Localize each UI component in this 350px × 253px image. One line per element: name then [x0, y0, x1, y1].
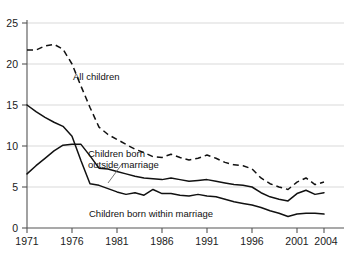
- y-tick-label-10: 10: [6, 140, 18, 152]
- x-tick-label-1981: 1981: [105, 235, 129, 247]
- all-children-label: All children: [73, 71, 119, 82]
- x-tick-label-2004: 2004: [314, 235, 338, 247]
- within-marriage-label: Children born within marriage: [89, 208, 213, 219]
- y-tick-label-15: 15: [6, 99, 18, 111]
- x-tick-label-1976: 1976: [60, 235, 84, 247]
- y-tick-label-0: 0: [12, 222, 18, 234]
- x-tick-label-1986: 1986: [150, 235, 174, 247]
- line-chart: 25 20 15 10 5 0 1971 1976 1981 1986 1991…: [0, 0, 350, 253]
- outside-marriage-label-line2: outside marriage: [88, 159, 159, 170]
- y-tick-label-20: 20: [6, 58, 18, 70]
- x-tick-label-1996: 1996: [240, 235, 264, 247]
- x-tick-label-1971: 1971: [15, 235, 39, 247]
- y-tick-label-5: 5: [12, 181, 18, 193]
- outside-marriage-label-line1: Children born: [88, 148, 145, 159]
- x-tick-label-1991: 1991: [195, 235, 219, 247]
- y-tick-label-25: 25: [6, 17, 18, 29]
- chart-canvas: 25 20 15 10 5 0 1971 1976 1981 1986 1991…: [0, 0, 350, 253]
- x-tick-label-2001: 2001: [285, 235, 309, 247]
